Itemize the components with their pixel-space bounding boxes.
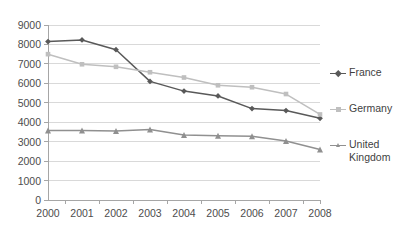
- y-tick-label: 6000: [18, 78, 41, 89]
- series-united-kingdom: [45, 127, 323, 153]
- legend-marker-dot: [336, 143, 340, 147]
- plot-area: [0, 0, 402, 236]
- x-axis-tick-marks: [44, 25, 320, 204]
- legend-marker-icon: [330, 68, 346, 79]
- series-germany: [46, 52, 323, 117]
- y-tick-label: 3000: [18, 137, 41, 148]
- legend-marker-dot: [336, 107, 341, 112]
- legend-label: Germany: [349, 102, 392, 115]
- data-point-marker: [284, 92, 289, 97]
- y-tick-label: 4000: [18, 117, 41, 128]
- legend-entry-germany[interactable]: Germany: [330, 102, 392, 115]
- data-point-marker: [318, 112, 323, 117]
- data-point-marker: [79, 37, 85, 43]
- legend-label: France: [349, 66, 382, 79]
- data-point-marker: [216, 83, 221, 88]
- data-point-marker: [250, 85, 255, 90]
- data-point-marker: [46, 52, 51, 57]
- series-line: [48, 54, 320, 114]
- y-tick-label: 2000: [18, 156, 41, 167]
- data-point-marker: [215, 93, 221, 99]
- data-point-marker: [114, 65, 119, 70]
- legend-marker-icon: [330, 140, 346, 151]
- y-tick-label: 9000: [18, 20, 41, 31]
- data-point-marker: [181, 88, 187, 94]
- y-tick-label: 0: [35, 195, 41, 206]
- data-point-marker: [283, 108, 289, 114]
- legend-marker-icon: [330, 104, 346, 115]
- data-point-marker: [249, 106, 255, 112]
- legend-entry-france[interactable]: France: [330, 66, 382, 79]
- axis-lines: [48, 25, 320, 200]
- series-layer: [45, 37, 323, 152]
- legend-marker-dot: [335, 70, 341, 76]
- line-chart: 0100020003000400050006000700080009000 20…: [0, 0, 402, 236]
- y-tick-label: 8000: [18, 39, 41, 50]
- data-point-marker: [148, 70, 153, 75]
- legend-entry-united-kingdom[interactable]: United Kingdom: [330, 138, 390, 163]
- data-point-marker: [182, 75, 187, 80]
- y-tick-label: 1000: [18, 176, 41, 187]
- x-tick-label: 2008: [300, 208, 340, 219]
- gridlines: [48, 25, 320, 200]
- legend-label: United Kingdom: [349, 138, 390, 163]
- data-point-marker: [45, 39, 51, 45]
- y-tick-label: 5000: [18, 98, 41, 109]
- data-point-marker: [80, 62, 85, 67]
- y-tick-label: 7000: [18, 59, 41, 70]
